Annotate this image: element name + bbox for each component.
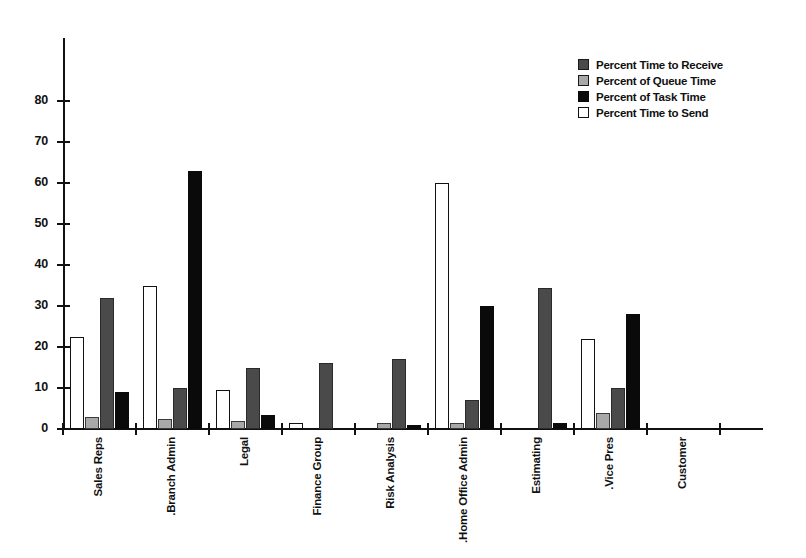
bar (261, 415, 275, 429)
legend-swatch-icon (578, 59, 589, 70)
bar (319, 363, 333, 429)
bar (70, 337, 84, 429)
bar (465, 400, 479, 429)
bar (158, 419, 172, 429)
category-label: Customer (676, 437, 688, 489)
bar (115, 392, 129, 429)
bar (231, 421, 245, 429)
legend-item[interactable]: Percent of Task Time (578, 89, 723, 104)
category-label: Home Office Admin. (457, 437, 469, 543)
legend-label: Percent of Task Time (596, 91, 706, 103)
bar (435, 183, 449, 429)
category-label: Legal (238, 437, 250, 466)
legend-item[interactable]: Percent Time to Send (578, 105, 723, 120)
category-label: Vice Pres. (603, 437, 615, 490)
legend-label: Percent of Queue Time (596, 75, 716, 87)
bar (377, 423, 391, 429)
bar (596, 413, 610, 429)
y-tick-label-10: 10 (14, 381, 48, 393)
bar (173, 388, 187, 429)
y-tick-label-20: 20 (14, 340, 48, 352)
bar (407, 425, 421, 429)
y-tick-label-70: 70 (14, 135, 48, 147)
bar (216, 390, 230, 429)
y-tick-label-40: 40 (14, 258, 48, 270)
bar (246, 368, 260, 430)
y-tick-label-80: 80 (14, 94, 48, 106)
y-tick-label-30: 30 (14, 299, 48, 311)
bar (450, 423, 464, 429)
y-tick-label-0: 0 (14, 422, 48, 434)
category-label: Estimating (530, 437, 542, 494)
bar (626, 314, 640, 429)
y-tick-label-50: 50 (14, 217, 48, 229)
bar (289, 423, 303, 429)
legend-label: Percent Time to Send (596, 107, 708, 119)
bar (538, 288, 552, 429)
chart-legend: Percent Time to ReceivePercent of Queue … (578, 57, 723, 121)
bar (188, 171, 202, 429)
legend-item[interactable]: Percent Time to Receive (578, 57, 723, 72)
bar (100, 298, 114, 429)
category-label: Finance Group (311, 437, 323, 516)
legend-label: Percent Time to Receive (596, 59, 723, 71)
bar (480, 306, 494, 429)
bar (392, 359, 406, 429)
y-tick-label-60: 60 (14, 176, 48, 188)
category-label: Sales Reps (92, 437, 104, 496)
bar (553, 423, 567, 429)
bar-chart: 01020304050607080 Sales RepsBranch Admin… (0, 0, 806, 558)
category-label: Risk Analysis (384, 437, 396, 509)
category-label: Branch Admin. (165, 437, 177, 516)
bar (85, 417, 99, 429)
legend-swatch-icon (578, 107, 589, 118)
legend-item[interactable]: Percent of Queue Time (578, 73, 723, 88)
bar (581, 339, 595, 429)
legend-swatch-icon (578, 91, 589, 102)
legend-swatch-icon (578, 75, 589, 86)
bar (143, 286, 157, 430)
bar (611, 388, 625, 429)
